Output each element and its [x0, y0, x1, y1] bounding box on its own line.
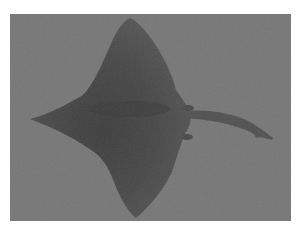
- photo: Grayscale photograph of a ray (top view)…: [10, 14, 291, 221]
- film-grain: [10, 14, 291, 221]
- ray-illustration: [10, 14, 291, 221]
